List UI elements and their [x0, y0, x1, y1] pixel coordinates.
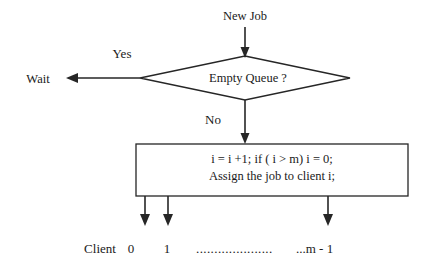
client-legend-index-last: ...m - 1 [296, 241, 333, 256]
edge-process-to-client-1 [163, 196, 173, 226]
process-line-2: Assign the job to client i; [209, 169, 335, 183]
edge-decision-to-wait [66, 73, 140, 83]
start-label: New Job [223, 9, 267, 23]
process-line-1: i = i +1; if ( i > m) i = 0; [211, 152, 333, 166]
flowchart-diagram: New Job Empty Queue ? Yes Wait No i = i … [0, 0, 432, 271]
decision-node: Empty Queue ? [140, 56, 350, 100]
client-legend-prefix: Client [84, 241, 116, 256]
client-legend-index-1: 1 [164, 241, 171, 256]
decision-label: Empty Queue ? [209, 71, 287, 85]
edge-process-to-client-m-1 [323, 196, 333, 226]
edge-start-to-decision [241, 27, 250, 58]
client-legend-index-0: 0 [128, 241, 135, 256]
edge-label-yes: Yes [113, 46, 132, 61]
wait-label: Wait [26, 72, 50, 86]
edge-label-no: No [205, 112, 221, 127]
edge-process-to-client-0 [140, 196, 150, 226]
process-node: i = i +1; if ( i > m) i = 0; Assign the … [136, 144, 408, 196]
client-legend-row: Client 0 1 ..................... ...m - … [84, 241, 333, 256]
client-legend-dots: ..................... [196, 241, 273, 256]
flowchart-canvas: New Job Empty Queue ? Yes Wait No i = i … [0, 0, 432, 271]
edge-decision-to-process [241, 100, 250, 144]
